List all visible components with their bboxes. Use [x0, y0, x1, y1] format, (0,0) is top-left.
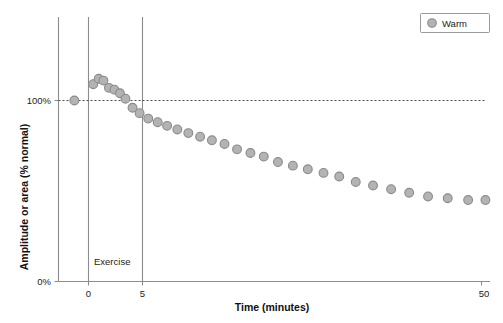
data-point [288, 161, 297, 170]
chart-figure: 100% 0% 0 5 50 Time (minutes) Amplitude … [0, 0, 503, 323]
data-point [246, 149, 255, 158]
y-tick-label-100: 100% [27, 95, 52, 106]
data-point [184, 129, 193, 138]
data-point [335, 172, 344, 181]
data-point [259, 152, 268, 161]
y-axis-title: Amplitude or area (% normal) [18, 124, 30, 270]
x-tick-label-5: 5 [140, 288, 145, 299]
data-point [144, 114, 153, 123]
data-point [319, 169, 328, 178]
data-point [153, 118, 162, 127]
legend-circle-marker [428, 19, 437, 28]
data-point [481, 196, 490, 205]
data-point [464, 196, 473, 205]
data-point [303, 165, 312, 174]
annotation-exercise: Exercise [94, 256, 130, 267]
data-point [274, 158, 283, 167]
y-tick-label-0: 0% [37, 276, 51, 287]
scatter-plot-svg: 100% 0% 0 5 50 Time (minutes) Amplitude … [0, 0, 503, 323]
data-point [369, 181, 378, 190]
legend-label-warm: Warm [442, 18, 467, 29]
data-point [163, 121, 172, 130]
data-point [233, 145, 242, 154]
x-axis-title: Time (minutes) [235, 301, 309, 313]
data-point [405, 188, 414, 197]
data-point [70, 96, 79, 105]
data-point [351, 178, 360, 187]
data-point [173, 125, 182, 134]
data-point [220, 140, 229, 149]
x-tick-label-50: 50 [479, 288, 490, 299]
data-point-group [70, 74, 490, 204]
data-point [196, 132, 205, 141]
x-tick-label-0: 0 [86, 288, 91, 299]
data-point [135, 109, 144, 118]
data-point [387, 185, 396, 194]
data-point [424, 192, 433, 201]
legend: Warm [421, 14, 490, 33]
data-point [121, 94, 130, 103]
data-point [208, 136, 217, 145]
data-point [443, 194, 452, 203]
